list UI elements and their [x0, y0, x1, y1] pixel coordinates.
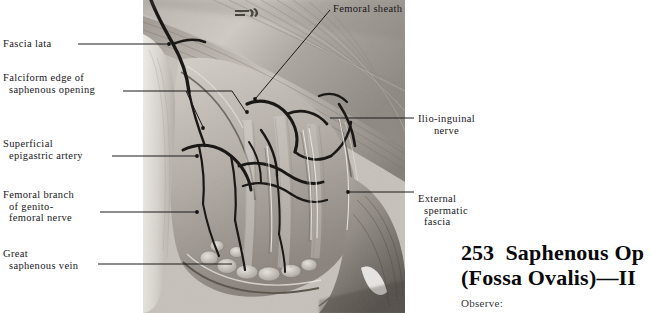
plate-caption-line1: 253 Saphenous Op	[461, 240, 644, 265]
label-external-spermatic-line1: External	[418, 193, 456, 204]
label-ilio-inguinal-line2: nerve	[434, 125, 459, 136]
plate-caption: 253 Saphenous Op (Fossa Ovalis)—II Obser…	[461, 240, 644, 310]
label-superficial-epigastric-line1: Superficial	[3, 138, 53, 149]
label-femoral-sheath: Femoral sheath	[333, 3, 402, 15]
label-falciform-edge-line1: Falciform edge of	[3, 72, 84, 83]
photograph-canvas	[143, 0, 405, 313]
label-femoral-branch-line3: femoral nerve	[3, 212, 72, 223]
dissection-photograph	[143, 0, 405, 313]
label-great-saphenous-vein: Great saphenous vein	[3, 248, 78, 271]
label-superficial-epigastric-artery: Superficial epigastric artery	[3, 138, 83, 161]
label-femoral-branch-genitofemoral-nerve: Femoral branch of genito- femoral nerve	[3, 189, 74, 224]
label-great-saphenous-vein-line1: Great	[3, 248, 28, 259]
label-femoral-branch-line2: of genito-	[3, 201, 54, 212]
label-superficial-epigastric-line2: epigastric artery	[3, 150, 83, 161]
label-ilio-inguinal-line1: Ilio-inguinal	[418, 113, 475, 124]
label-external-spermatic-line3: fascia	[418, 216, 451, 227]
label-fascia-lata: Fascia lata	[3, 38, 51, 50]
label-falciform-edge: Falciform edge of saphenous opening	[3, 72, 95, 95]
plate-number: 253	[461, 240, 494, 265]
label-external-spermatic-line2: spermatic	[418, 205, 468, 216]
label-external-spermatic-fascia: External spermatic fascia	[418, 193, 468, 228]
plate-caption-line2: (Fossa Ovalis)—II	[461, 265, 644, 290]
label-ilio-inguinal-nerve: Ilio-inguinalnerve	[418, 113, 475, 136]
plate-title-spacer	[494, 240, 505, 265]
label-great-saphenous-vein-line2: saphenous vein	[3, 260, 78, 271]
label-falciform-edge-line2: saphenous opening	[3, 84, 95, 95]
anatomy-plate-page: Fascia lata Falciform edge of saphenous …	[0, 0, 651, 313]
plate-title-line1: Saphenous Op	[505, 240, 644, 265]
label-femoral-branch-line1: Femoral branch	[3, 189, 74, 200]
observe-label: Observe:	[461, 296, 644, 310]
